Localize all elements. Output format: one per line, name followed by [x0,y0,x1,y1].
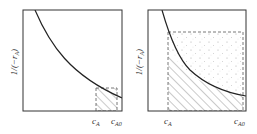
left-plot: 1/(−rA) cA cA0 [9,10,122,127]
right-ylabel: 1/(−rA) [134,49,145,75]
right-xtick-cA0: cA0 [234,116,245,127]
left-ylabel: 1/(−rA) [9,49,20,75]
left-curve [35,10,122,98]
left-xtick-cA0: cA0 [111,116,122,127]
right-xtick-cA: cA [164,116,172,127]
levenspiel-plots: 1/(−rA) cA cA0 1/(−rA) cA [0,0,257,134]
left-xtick-cA: cA [92,116,100,127]
left-hatched-area [96,88,117,111]
right-plot: 1/(−rA) cA cA0 [134,10,246,127]
